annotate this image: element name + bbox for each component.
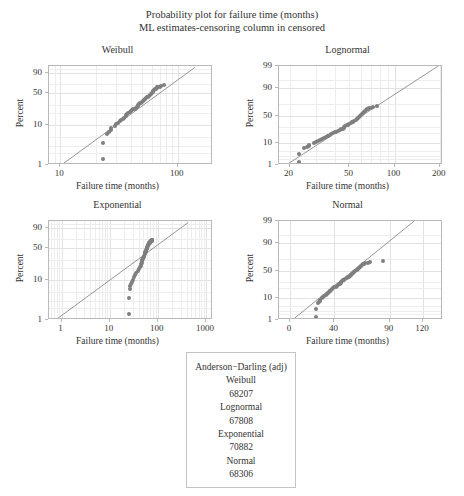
data-point — [314, 307, 318, 311]
y-axis-label: Percent — [15, 83, 25, 143]
data-point — [297, 152, 301, 156]
x-axis-tickmark — [348, 164, 349, 167]
panel-title-exponential: Exponential — [10, 199, 225, 210]
y-axis-label: Percent — [245, 83, 255, 143]
y-axis-tick-label: 1 — [240, 159, 272, 169]
x-axis-tick-label: 100 — [150, 323, 164, 333]
x-axis-label: Failure time (months) — [240, 336, 455, 346]
y-axis-tick-label: 99 — [240, 215, 272, 225]
panel-title-weibull: Weibull — [10, 44, 225, 55]
x-axis-tick-label: 200 — [432, 168, 446, 178]
ad-value-exponential: 70882 — [187, 441, 295, 454]
y-axis-tickmark — [275, 242, 278, 243]
x-axis-tickmark — [177, 164, 178, 167]
x-axis-tickmark — [61, 319, 62, 322]
y-axis-label: Percent — [15, 238, 25, 298]
x-axis-label: Failure time (months) — [10, 181, 225, 191]
x-axis-tickmark — [439, 164, 440, 167]
x-axis-tick-label: 1000 — [196, 323, 214, 333]
x-axis-label: Failure time (months) — [10, 336, 225, 346]
x-axis-tickmark — [333, 319, 334, 322]
figure-title: Probability plot for failure time (month… — [0, 8, 464, 34]
x-axis-tick-label: 10 — [55, 168, 64, 178]
y-axis-tick-label: 1 — [240, 314, 272, 324]
data-point — [127, 296, 131, 300]
y-axis-tick-label: 90 — [10, 67, 42, 77]
x-axis-tickmark — [389, 319, 390, 322]
data-point — [307, 143, 311, 147]
y-axis-tickmark — [45, 124, 48, 125]
y-axis-tick-label: 1 — [10, 314, 42, 324]
data-point — [314, 315, 318, 319]
data-point — [101, 141, 105, 145]
y-axis-tickmark — [275, 65, 278, 66]
y-axis-label: Percent — [245, 238, 255, 298]
fit-line — [49, 221, 212, 319]
x-axis-tick-label: 10 — [104, 323, 113, 333]
y-axis-tickmark — [275, 297, 278, 298]
x-axis-tick-label: 120 — [415, 323, 429, 333]
panel-lognormal: Lognormal 1105090992050100200PercentFail… — [240, 44, 455, 194]
y-axis-tickmark — [45, 164, 48, 165]
x-axis-tick-label: 100 — [387, 168, 401, 178]
fit-line — [279, 221, 442, 319]
y-axis-tickmark — [275, 142, 278, 143]
x-axis-tickmark — [394, 164, 395, 167]
x-axis-tickmark — [289, 164, 290, 167]
ad-name-lognormal: Lognormal — [187, 401, 295, 414]
plot-frame-exponential — [48, 220, 212, 319]
data-point — [381, 259, 385, 263]
panel-title-normal: Normal — [240, 199, 455, 210]
x-axis-tickmark — [59, 164, 60, 167]
plot-frame-lognormal — [278, 65, 442, 164]
x-axis-tick-label: 0 — [287, 323, 292, 333]
x-axis-tick-label: 100 — [170, 168, 184, 178]
ad-name-normal: Normal — [187, 455, 295, 468]
ad-value-normal: 68306 — [187, 468, 295, 481]
x-axis-tick-label: 50 — [344, 168, 353, 178]
figure-title-line-1: Probability plot for failure time (month… — [0, 8, 464, 21]
fit-line — [49, 66, 212, 164]
x-axis-tickmark — [157, 319, 158, 322]
x-axis-tickmark — [422, 319, 423, 322]
y-axis-tickmark — [45, 279, 48, 280]
y-axis-tickmark — [45, 92, 48, 93]
panel-title-lognormal: Lognormal — [240, 44, 455, 55]
panel-exponential: Exponential 11050901101001000PercentFail… — [10, 199, 225, 349]
x-axis-tickmark — [109, 319, 110, 322]
y-axis-tick-label: 99 — [240, 60, 272, 70]
y-axis-tick-label: 1 — [10, 159, 42, 169]
anderson-darling-box: Anderson−Darling (adj) Weibull 68207 Log… — [186, 352, 296, 488]
ad-name-exponential: Exponential — [187, 428, 295, 441]
y-axis-tickmark — [275, 319, 278, 320]
plot-frame-weibull — [48, 65, 212, 164]
plot-frame-normal — [278, 220, 442, 319]
y-axis-tickmark — [45, 72, 48, 73]
x-axis-tickmark — [205, 319, 206, 322]
y-axis-tickmark — [45, 227, 48, 228]
y-axis-tickmark — [45, 247, 48, 248]
y-axis-tickmark — [275, 87, 278, 88]
x-axis-tick-label: 90 — [384, 323, 393, 333]
x-axis-tick-label: 40 — [329, 323, 338, 333]
y-axis-tick-label: 90 — [10, 222, 42, 232]
x-axis-tick-label: 1 — [58, 323, 63, 333]
ad-name-weibull: Weibull — [187, 374, 295, 387]
x-axis-tick-label: 20 — [284, 168, 293, 178]
y-axis-tickmark — [275, 270, 278, 271]
ad-value-lognormal: 67808 — [187, 415, 295, 428]
figure-title-line-2: ML estimates-censoring column in censore… — [0, 21, 464, 34]
panel-weibull: Weibull 110509010100PercentFailure time … — [10, 44, 225, 194]
x-axis-label: Failure time (months) — [240, 181, 455, 191]
x-axis-tickmark — [289, 319, 290, 322]
y-axis-tickmark — [275, 220, 278, 221]
y-axis-tickmark — [275, 115, 278, 116]
data-point — [368, 260, 372, 264]
y-axis-tickmark — [45, 319, 48, 320]
y-axis-tickmark — [275, 164, 278, 165]
ad-header: Anderson−Darling (adj) — [187, 361, 295, 374]
panel-normal: Normal 11050909904090120PercentFailure t… — [240, 199, 455, 349]
ad-value-weibull: 68207 — [187, 388, 295, 401]
data-point — [297, 160, 301, 164]
data-point — [162, 83, 166, 87]
